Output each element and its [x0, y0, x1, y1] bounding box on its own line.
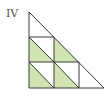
- staircase-triangle-diagram: [0, 0, 105, 99]
